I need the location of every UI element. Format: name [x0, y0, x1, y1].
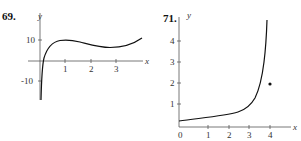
- isolated-point-71: [268, 82, 271, 85]
- graph-71: 71. y x 0 1 2 3 4 1 2 3 4: [163, 10, 297, 140]
- x-tick-label-0-71: 0: [178, 130, 183, 140]
- y-tick-label-3-71: 3: [170, 57, 175, 67]
- y-tick-label-10-69: 10: [26, 35, 36, 45]
- x-tick-label-3-69: 3: [114, 64, 119, 74]
- figure-canvas: 69. y x 1 2 3 10 -10 71. y x 0 1: [0, 0, 301, 141]
- y-axis-label-69: y: [37, 11, 42, 21]
- y-tick-label-2-71: 2: [170, 78, 175, 88]
- graph-69: 69. y x 1 2 3 10 -10: [2, 10, 149, 100]
- x-tick-label-2-71: 2: [227, 130, 232, 140]
- curve-71: [179, 20, 267, 121]
- y-tick-label-4-71: 4: [170, 36, 175, 46]
- x-tick-label-2-69: 2: [89, 64, 94, 74]
- x-tick-label-3-71: 3: [247, 130, 252, 140]
- x-axis-label-69: x: [144, 56, 149, 66]
- x-tick-label-1-71: 1: [206, 130, 211, 140]
- y-tick-label-1-71: 1: [170, 99, 175, 109]
- y-axis-label-71: y: [186, 10, 191, 20]
- x-axis-label-71: x: [292, 122, 297, 132]
- x-tick-label-1-69: 1: [63, 64, 68, 74]
- y-tick-label-neg10-69: -10: [21, 76, 33, 86]
- problem-number-71: 71.: [163, 12, 177, 24]
- problem-number-69: 69.: [2, 10, 16, 22]
- x-tick-label-4-71: 4: [268, 130, 273, 140]
